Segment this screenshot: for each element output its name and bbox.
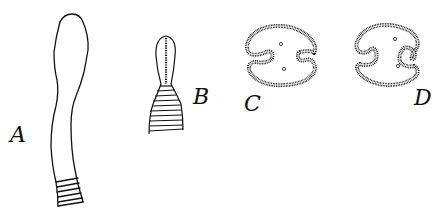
- panel-d-drawing: [356, 25, 417, 85]
- panel-label-b: B: [193, 86, 209, 108]
- panel-label-c: C: [244, 93, 261, 115]
- figure: A B C D: [0, 0, 442, 211]
- panel-c-drawing: [247, 26, 315, 85]
- panel-a-drawing: [51, 14, 88, 206]
- figure-drawings: [0, 0, 442, 211]
- panel-b-drawing: [149, 36, 183, 134]
- panel-label-d: D: [414, 87, 432, 109]
- panel-label-a: A: [10, 124, 26, 146]
